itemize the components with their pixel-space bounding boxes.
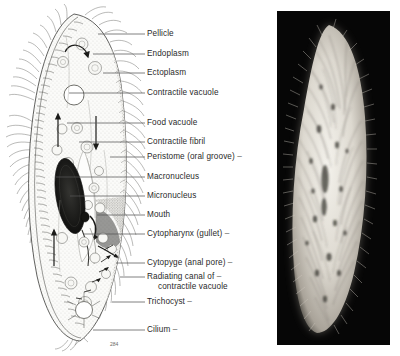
label-trichocyst: Trichocyst –	[147, 297, 192, 307]
label-text: Peristome (oral groove)	[147, 152, 235, 161]
label-text: Trichocyst	[147, 297, 185, 306]
label-text: Contractile vacuole	[147, 88, 219, 97]
label-peristome: Peristome (oral groove) –	[147, 152, 242, 162]
label-text: Cilium	[147, 325, 170, 334]
label-text: Radiating canal of	[147, 272, 214, 281]
paramecium-diagram-panel: PellicleEndoplasmEctoplasmContractile va…	[0, 0, 265, 356]
label-trailing-dash: –	[214, 272, 221, 281]
label-text: Cytopyge (anal pore)	[147, 258, 225, 267]
label-text: Contractile fibril	[147, 137, 205, 146]
micronucleus	[81, 212, 89, 222]
label-trailing-dash: –	[170, 325, 177, 334]
drawing-corner-mark: 284	[110, 341, 118, 347]
label-radiating-canal: Radiating canal of –contractile vacuole	[147, 272, 228, 291]
contractile-vacuole	[64, 85, 84, 105]
label-food-vacuole: Food vacuole	[147, 118, 197, 128]
label-text: Mouth	[147, 210, 170, 219]
label-cilium: Cilium –	[147, 325, 177, 335]
label-text: Endoplasm	[147, 49, 189, 58]
label-text: Ectoplasm	[147, 68, 186, 77]
label-micronucleus: Micronucleus	[147, 191, 196, 201]
label-contractile-vacuole: Contractile vacuole	[147, 88, 219, 98]
label-trailing-dash: –	[222, 229, 229, 238]
label-ectoplasm: Ectoplasm	[147, 68, 186, 78]
paramecium-photo-svg	[277, 11, 390, 345]
label-cytopharynx: Cytopharynx (gullet) –	[147, 229, 229, 239]
label-macronucleus: Macronucleus	[147, 172, 199, 182]
label-endoplasm: Endoplasm	[147, 49, 189, 59]
paramecium-drawing-svg	[0, 0, 265, 356]
label-trailing-dash: –	[185, 297, 192, 306]
paramecium-figure: PellicleEndoplasmEctoplasmContractile va…	[0, 0, 400, 356]
label-text: Cytopharynx (gullet)	[147, 229, 222, 238]
label-text: Food vacuole	[147, 118, 197, 127]
label-trailing-dash: –	[235, 152, 242, 161]
label-text: Pellicle	[147, 29, 174, 38]
label-mouth: Mouth	[147, 210, 170, 220]
label-text: Micronucleus	[147, 191, 196, 200]
label-text-line2: contractile vacuole	[147, 282, 228, 292]
label-text: Macronucleus	[147, 172, 199, 181]
label-trailing-dash: –	[225, 258, 232, 267]
label-pellicle: Pellicle	[147, 29, 174, 39]
label-contractile-fibril: Contractile fibril	[147, 137, 205, 147]
paramecium-photo-panel	[277, 11, 390, 345]
label-cytopyge: Cytopyge (anal pore) –	[147, 258, 233, 268]
